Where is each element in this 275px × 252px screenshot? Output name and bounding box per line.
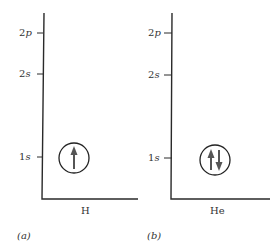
spin-down-arrow-icon	[216, 150, 223, 171]
energy-axis-a	[42, 13, 138, 199]
spin-up-arrow-icon	[208, 149, 215, 170]
panel-b-helium: 2p 2s 1s He (b)	[147, 13, 270, 241]
level-label-2s-a: 2s	[19, 68, 31, 79]
level-label-2s-b: 2s	[148, 69, 160, 80]
caption-b: (b)	[147, 230, 161, 241]
level-label-2p-b: 2p	[148, 27, 161, 38]
panel-a-hydrogen: 2p 2s 1s H (a)	[17, 13, 138, 241]
element-label-b: He	[210, 205, 225, 216]
level-label-1s-b: 1s	[148, 152, 160, 163]
level-label-2p-a: 2p	[19, 27, 32, 38]
orbital-1s-b	[200, 145, 230, 175]
level-label-1s-a: 1s	[19, 151, 31, 162]
energy-axis-b	[171, 13, 270, 199]
element-label-a: H	[81, 205, 90, 216]
spin-up-arrow-icon	[71, 146, 78, 169]
caption-a: (a)	[17, 230, 31, 241]
